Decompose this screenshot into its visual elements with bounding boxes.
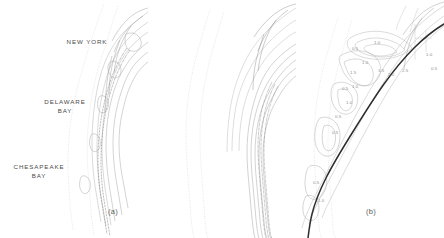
contour-label: 0.5: [332, 130, 338, 135]
contour-label: 1.0: [346, 100, 352, 105]
contour-label: 1.0: [318, 198, 324, 203]
contour-label: 2.0: [388, 72, 394, 77]
contour-label: 1.0: [362, 60, 368, 65]
place-label-new-york: NEW YORK: [56, 38, 118, 47]
contour-label: 0.5: [313, 180, 319, 185]
shelf-break-dense-band: [258, 82, 278, 238]
contour-label: 1.5: [378, 68, 384, 73]
panel-a-contour-map: [0, 0, 148, 238]
contour-group-bundle: [247, 44, 296, 238]
panel-a: NEW YORK DELAWARE BAY CHESAPEAKE BAY (a): [0, 0, 148, 238]
panel-c: 0.5 1.0 1.0 1.5 1.5 2.0 2.5 0.5 1.0 1.0 …: [296, 0, 444, 238]
contour-label: 1.0: [352, 84, 358, 89]
contour-group-inner: [106, 42, 148, 221]
coastline-group: [186, 10, 224, 238]
contour-label: 1.0: [374, 40, 380, 45]
heavy-boundary-curve: [308, 24, 444, 238]
contour-label: 0.5: [335, 114, 341, 119]
contour-label: 0.5: [352, 46, 358, 51]
contour-label: 1.0: [426, 52, 432, 57]
figure-container: NEW YORK DELAWARE BAY CHESAPEAKE BAY (a): [0, 0, 444, 238]
contour-branching-top: [403, 2, 444, 69]
contour-label: 1.5: [350, 70, 356, 75]
place-label-delaware-bay: DELAWARE BAY: [34, 98, 96, 115]
contour-group-outer: [227, 8, 296, 152]
contour-branching-upper: [253, 4, 296, 90]
panel-b: (b): [148, 0, 296, 238]
contour-label: 0.5: [431, 66, 437, 71]
contour-group-mid: [331, 51, 381, 114]
place-label-chesapeake-bay: CHESAPEAKE BAY: [4, 163, 74, 180]
panel-b-contour-map: [148, 0, 296, 238]
contour-label: 0.5: [342, 86, 348, 91]
panel-caption-a: (a): [108, 207, 118, 216]
contour-label: 2.5: [402, 68, 408, 73]
